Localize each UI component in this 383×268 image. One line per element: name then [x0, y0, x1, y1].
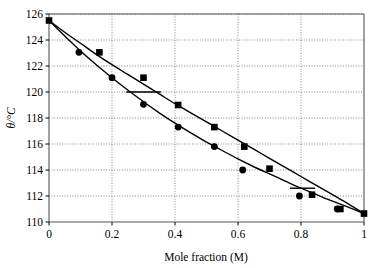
- data-point-circle: [296, 193, 303, 200]
- data-point-square: [241, 143, 248, 150]
- y-tick-label: 124: [26, 34, 44, 46]
- data-point-square: [46, 17, 53, 24]
- data-point-circle: [334, 206, 341, 213]
- y-tick-label: 116: [26, 138, 43, 150]
- data-point-square: [175, 102, 182, 109]
- data-point-square: [309, 191, 316, 198]
- x-tick-label: 1: [361, 228, 367, 240]
- data-point-circle: [140, 101, 147, 108]
- chart-canvas: 11011211411611812012212412600.20.40.60.8…: [0, 0, 383, 268]
- y-tick-label: 110: [26, 216, 43, 228]
- y-axis-title-text: θ/°C: [5, 107, 17, 128]
- x-tick-label: 0.6: [231, 228, 246, 240]
- data-point-circle: [175, 124, 182, 131]
- x-axis-title: Mole fraction (M): [164, 251, 248, 264]
- y-tick-label: 112: [26, 190, 43, 202]
- x-tick-label: 0.8: [294, 228, 309, 240]
- x-tick-label: 0.4: [168, 228, 183, 240]
- data-point-square: [266, 165, 273, 172]
- y-tick-label: 120: [26, 86, 44, 98]
- x-tick-label: 0.2: [105, 228, 120, 240]
- y-tick-label: 118: [26, 112, 43, 124]
- data-point-circle: [109, 74, 116, 81]
- data-point-square: [361, 210, 368, 217]
- data-point-square: [140, 74, 147, 81]
- y-tick-label: 122: [26, 60, 44, 72]
- x-tick-label: 0: [46, 228, 52, 240]
- y-tick-label: 114: [26, 164, 43, 176]
- data-point-square: [96, 49, 103, 56]
- data-point-square: [211, 124, 218, 131]
- y-tick-label: 126: [26, 8, 44, 20]
- data-point-circle: [239, 167, 246, 174]
- data-point-circle: [211, 143, 218, 150]
- data-point-circle: [76, 49, 83, 56]
- y-axis-title: θ/°C: [5, 107, 17, 128]
- phase-diagram-figure: 11011211411611812012212412600.20.40.60.8…: [0, 0, 383, 268]
